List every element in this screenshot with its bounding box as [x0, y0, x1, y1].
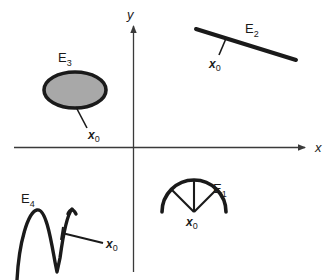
E2-label: E2 — [245, 21, 259, 39]
E1-label: E1 — [213, 181, 227, 199]
E1-point-label: x0 — [185, 215, 198, 231]
y-axis-label: y — [126, 7, 135, 22]
E4-curve — [17, 209, 72, 280]
set-E4: E4 x0 — [17, 191, 118, 280]
E4-point-leader — [62, 233, 103, 243]
diagram-canvas: x y E2 x0 E3 x0 — [0, 0, 333, 280]
E1-radius-left — [172, 190, 195, 213]
coordinate-axes: x y — [14, 7, 322, 272]
E3-ellipse — [44, 72, 106, 108]
E2-point-leader — [219, 39, 226, 56]
E4-label: E4 — [21, 191, 35, 209]
set-E2: E2 x0 — [196, 21, 296, 73]
x-axis-label: x — [314, 140, 322, 155]
E3-point-label: x0 — [87, 128, 100, 144]
E3-point-leader — [76, 107, 87, 128]
set-E3: E3 x0 — [44, 50, 106, 144]
set-E1: E1 x0 — [162, 180, 227, 231]
E2-point-label: x0 — [208, 57, 221, 73]
E3-label: E3 — [58, 50, 72, 68]
E4-point-label: x0 — [105, 237, 118, 253]
